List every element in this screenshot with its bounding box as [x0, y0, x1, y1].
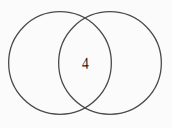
venn-diagram-canvas — [0, 0, 172, 128]
venn-diagram-figure: 4 — [0, 0, 172, 128]
venn-circle-right — [59, 12, 162, 115]
venn-circle-left — [9, 12, 112, 115]
